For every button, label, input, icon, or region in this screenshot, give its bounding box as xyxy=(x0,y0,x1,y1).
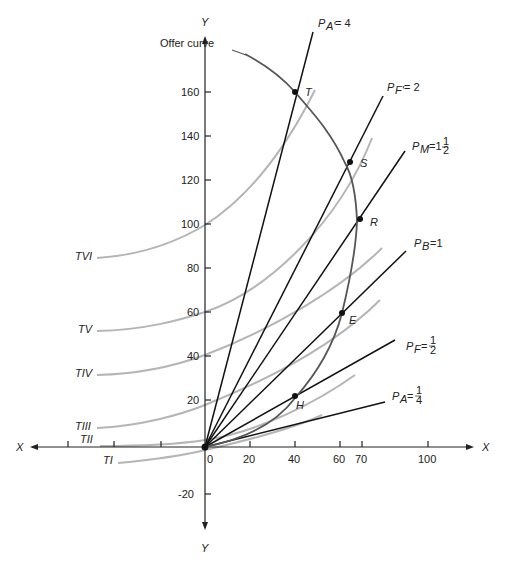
label-pa-prime-4: P A' = 4 xyxy=(318,17,351,32)
price-line-labels: P A' = 4 P F' = 2 P M =1 1 2 P B =1 P F … xyxy=(318,17,449,406)
offer-curve-label: Offer curve xyxy=(160,37,214,49)
label-pa-quarter: P A = 1 4 xyxy=(392,384,422,406)
point-h-label: H xyxy=(296,399,304,411)
x-tick-label-20: 20 xyxy=(243,453,255,465)
frac-den: 2 xyxy=(430,344,436,356)
label-tvi: TVI xyxy=(75,250,92,262)
x-axis-label-left: X xyxy=(15,441,24,453)
label-tiii: TIII xyxy=(75,420,91,432)
price-line-pb-1 xyxy=(205,251,406,447)
label-pf-half: P F = 1 2 xyxy=(406,334,436,356)
frac-den: 2 xyxy=(443,144,449,156)
x-axis-label-right: X xyxy=(481,441,490,453)
y-tick-label-80: 80 xyxy=(187,262,199,274)
point-e xyxy=(339,310,345,316)
label-ti: TI xyxy=(103,454,113,466)
origin-point xyxy=(202,444,209,451)
y-tick-label-neg-20: -20 xyxy=(178,488,194,500)
label-p: P xyxy=(412,140,420,152)
label-tv: TV xyxy=(78,323,94,335)
frac-den: 4 xyxy=(416,394,422,406)
axis-labels: X X Y Y xyxy=(15,16,490,554)
y-tick-label-20: 20 xyxy=(187,394,199,406)
label-value: = 4 xyxy=(335,17,351,29)
y-tick-label-160: 160 xyxy=(181,86,199,98)
y-tick-label-40: 40 xyxy=(187,350,199,362)
label-tiv: TIV xyxy=(75,367,94,379)
label-value: = xyxy=(407,390,413,402)
x-axis-right-arrow xyxy=(466,444,474,450)
point-r xyxy=(357,216,363,222)
label-pb-1: P B =1 xyxy=(414,237,443,252)
indifference-curve-labels: TI TII TIII TIV TV TVI xyxy=(75,250,113,466)
label-pf-prime-2: P F' = 2 xyxy=(387,81,420,96)
indifference-curve-tv xyxy=(97,138,372,331)
label-value: =1 xyxy=(430,237,443,249)
label-value: = xyxy=(421,340,427,352)
label-p: P xyxy=(406,340,414,352)
y-axis-bottom-arrow xyxy=(202,522,208,530)
x-tick-label-60: 60 xyxy=(333,453,345,465)
offer-curve-leader xyxy=(232,50,246,55)
x-tick-label-100: 100 xyxy=(418,453,436,465)
label-value: = 2 xyxy=(404,81,420,93)
point-t xyxy=(292,89,298,95)
label-p: P xyxy=(414,237,422,249)
label-p: P xyxy=(318,17,326,29)
indifference-curve-tii xyxy=(100,375,355,446)
x-origin-label: 0 xyxy=(207,453,213,465)
label-p: P xyxy=(392,390,400,402)
point-e-label: E xyxy=(349,314,357,326)
y-tick-label-60: 60 xyxy=(187,306,199,318)
indifference-curve-tvi xyxy=(97,90,315,258)
label-pm-1-half: P M =1 1 2 xyxy=(412,135,449,156)
trade-indifference-curves xyxy=(97,90,382,463)
point-r-label: R xyxy=(370,216,378,228)
y-axis-label-top: Y xyxy=(201,16,209,28)
label-tii: TII xyxy=(80,433,93,445)
y-tick-label-100: 100 xyxy=(181,218,199,230)
y-tick-label-120: 120 xyxy=(181,174,199,186)
y-axis-label-bottom: Y xyxy=(201,542,209,554)
y-tick-label-140: 140 xyxy=(181,130,199,142)
label-sub: B xyxy=(422,240,429,252)
point-s xyxy=(347,159,353,165)
point-s-label: S xyxy=(360,157,368,169)
x-axis-left-arrow xyxy=(30,444,38,450)
x-tick-label-40: 40 xyxy=(288,453,300,465)
label-p: P xyxy=(387,81,395,93)
x-tick-label-70: 70 xyxy=(355,453,367,465)
label-value: =1 xyxy=(429,140,442,152)
offer-curve-chart: 0 20 40 60 70 100 160 140 120 100 80 60 … xyxy=(0,0,510,563)
